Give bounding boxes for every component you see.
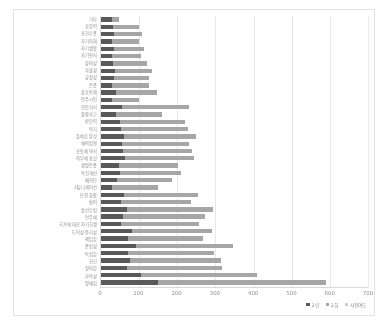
bar-row [101,118,368,125]
bar-row [101,184,368,191]
category-label: 직무에 충실 [14,156,100,163]
bar-segment [101,112,116,116]
bar-segment [101,76,114,80]
category-label: 자기생활 [14,45,100,52]
legend-item[interactable]: 2년 [306,301,318,308]
stacked-bar [101,90,368,94]
category-label: 준법성 [14,244,100,251]
stacked-bar [101,185,368,189]
stacked-bar [101,236,368,240]
gridline [368,16,369,287]
bar-segment [121,222,199,226]
bar-row [101,198,368,205]
bar-segment [101,61,113,65]
bar-segment [101,280,158,284]
stacked-bar [101,112,368,116]
stacked-bar [101,222,368,226]
bar-row [101,264,368,271]
bar-segment [114,47,144,51]
stacked-bar [101,47,368,51]
bar-segment [120,171,181,175]
bar-row [101,16,368,23]
stacked-bar [101,229,368,233]
bar-segment [101,193,124,197]
bar-segment [101,47,114,51]
stacked-bar [101,127,368,131]
bar-segment [112,17,119,21]
bar-row [101,257,368,264]
bar-segment [115,69,152,73]
x-axis-tick-label: 500 [286,290,296,296]
bar-segment [112,83,149,87]
bar-segment [112,185,158,189]
category-label: 복건개선 [14,170,100,177]
x-axis-tick-label: 700 [363,290,373,296]
bar-segment [120,120,185,124]
bar-segment [122,105,189,109]
bar-row [101,96,368,103]
stacked-bar [101,178,368,182]
category-label: 커뮤니케이션 [14,185,100,192]
category-label: 도덕성·윤리성 [14,229,100,236]
category-label: 공동체 의식 [14,148,100,155]
stacked-bar [101,32,368,36]
category-label: 국가에 대한 자기희생 [14,222,100,229]
bar-segment [101,207,127,211]
category-label: 복지 [14,126,100,133]
bar-segment [116,112,162,116]
bar-segment [113,25,139,29]
bar-row [101,162,368,169]
stacked-bar [101,280,368,284]
stacked-bar [101,258,368,262]
legend-swatch-icon [345,303,348,306]
bar-segment [101,83,112,87]
bar-segment [101,134,124,138]
bar-segment [127,207,213,211]
bar-row [101,177,368,184]
stacked-bar [101,39,368,43]
bar-segment [121,127,188,131]
bar-segment [141,273,257,277]
bar-segment [101,251,128,255]
category-label: 연우애 [14,214,100,221]
x-axis: 0100200300400500600700 [100,288,368,300]
legend-item[interactable]: 사전여도 [345,301,366,308]
chart-plot-wrapper: 기타공감력표현수용자기이해자기생활자기인식창의성자율성긍정성존중상호반례민주시민… [14,10,374,315]
category-label: 명예심 [14,280,100,287]
bar-row [101,213,368,220]
x-axis-tick-label: 200 [171,290,181,296]
bar-segment [101,127,121,131]
bar-segment [101,244,136,248]
category-label: 상호반례 [14,89,100,96]
bar-row [101,52,368,59]
bar-segment [101,98,112,102]
bar-segment [116,90,156,94]
bar-row [101,155,368,162]
bar-segment [128,236,202,240]
category-label: 예의범절 [14,141,100,148]
legend-item[interactable]: 2회 [326,301,338,308]
category-label: 전문지식 [14,104,100,111]
bar-segment [124,134,196,138]
category-label: 기타 [14,16,100,23]
chart-legend: 2년2회사전여도 [14,301,366,308]
bar-segment [101,69,115,73]
bar-row [101,111,368,118]
bar-row [101,67,368,74]
bar-segment [119,163,178,167]
stacked-bar [101,98,368,102]
bar-segment [101,142,122,146]
category-label: 융합사고 [14,111,100,118]
stacked-bar [101,25,368,29]
stacked-bar [101,142,368,146]
category-label: 존중 [14,82,100,89]
stacked-bar [101,17,368,21]
bar-row [101,104,368,111]
bar-segment [112,54,141,58]
bar-segment [101,171,120,175]
bar-segment [121,200,192,204]
bar-row [101,279,368,286]
bar-row [101,74,368,81]
stacked-bar [101,54,368,58]
bar-series-container [101,16,368,286]
